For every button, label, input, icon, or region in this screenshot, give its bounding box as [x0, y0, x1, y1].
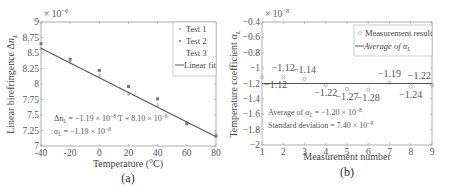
- x-tick-label: 2: [281, 147, 286, 157]
- y-tick-label: 9: [34, 17, 39, 27]
- data-label: −1.14: [293, 64, 316, 75]
- std-annotation: Standard deviation = 7.40 × 10−9: [268, 120, 373, 130]
- y-tick-label: −2: [250, 140, 260, 150]
- x-tick-label: 8: [408, 147, 413, 157]
- x-tick-label: 1: [260, 147, 265, 157]
- y-tick-label: 8.25: [22, 64, 39, 74]
- data-point: [127, 85, 130, 88]
- x-tick-label: 9: [430, 147, 435, 157]
- data-label: −1.22: [408, 70, 431, 81]
- x-tick-label: 80: [211, 148, 221, 158]
- y-tick-label: −1: [250, 63, 260, 73]
- marks-b: −1.12−1.12−1.14−1.22−1.27−1.28−1.19−1.24…: [260, 62, 433, 102]
- legend-label-linear-fit: Linear fit: [184, 60, 216, 70]
- data-point: [98, 69, 101, 72]
- data-label: −1.27: [335, 91, 358, 102]
- data-point: [40, 42, 43, 45]
- legend-label-measurement: Measurement result: [365, 28, 433, 38]
- data-point: [186, 124, 188, 126]
- y-tick-label: −0.6: [243, 32, 260, 42]
- legend-b: Measurement result Average of αL: [354, 25, 433, 56]
- y-tick-label: 8: [34, 79, 39, 89]
- data-label: −1.24: [399, 89, 422, 100]
- y-tick-label: 7: [34, 141, 39, 151]
- legend-a: Test 1 Test 2 Test 3 Linear fit: [173, 22, 216, 76]
- data-point: [215, 134, 217, 136]
- y-tick-label: −1.4: [243, 94, 260, 104]
- panel-b: 123456789−2−1.8−1.6−1.4−1.2−1−0.8−0.6−0.…: [228, 7, 435, 179]
- y-tick-label: −1.8: [243, 125, 260, 135]
- data-point: [156, 97, 159, 100]
- data-label: −1.22: [314, 87, 337, 98]
- y-multiplier-b: × 10−8: [265, 7, 289, 19]
- y-tick-label: 7.25: [22, 126, 39, 136]
- data-label: −1.12: [272, 62, 295, 73]
- x-axis-title-b: Measurement number: [303, 151, 391, 162]
- x-tick-label: -20: [64, 148, 77, 158]
- data-point: [98, 73, 100, 75]
- y-tick-label: 8.5: [27, 48, 39, 58]
- data-point: [303, 77, 306, 80]
- legend-label-test3: Test 3: [186, 48, 206, 58]
- legend-marker-test1: [179, 28, 181, 30]
- y-tick-label: −0.4: [243, 17, 260, 27]
- data-point: [157, 103, 159, 105]
- y-tick-label: 7.5: [27, 110, 39, 120]
- legend-label-test1: Test 1: [186, 24, 206, 34]
- y-axis-title-b: Temperature coefficient αL: [228, 30, 242, 137]
- y-multiplier-a: × 10−6: [44, 7, 69, 19]
- y-tick-label: 8.75: [22, 33, 39, 43]
- panel-caption-a: (a): [121, 171, 134, 185]
- data-point: [69, 59, 71, 61]
- legend-label-average: Average of αL: [363, 41, 411, 52]
- y-tick-label: 7.75: [22, 95, 39, 105]
- y-tick-label: −0.8: [243, 48, 260, 58]
- y-tick-label: −1.6: [243, 109, 260, 119]
- fit-equation-annotation: ΔnL = −1.19 × 10−8 T + 8.10 × 10−6: [54, 113, 168, 124]
- x-axis-title-a: Temperature (°C): [93, 158, 163, 170]
- y-tick-label: −1.2: [243, 79, 260, 89]
- data-label: −1.19: [378, 68, 401, 79]
- legend-marker-test2: [179, 40, 181, 42]
- data-label: −1.12: [264, 79, 287, 90]
- panel-caption-b: (b): [340, 165, 354, 179]
- x-tick-label: 60: [182, 148, 192, 158]
- panel-a: -40-2002040608077.257.57.7588.258.58.759…: [5, 7, 221, 185]
- alpha-annotation: αL = −1.19 × 10−8: [54, 126, 111, 137]
- x-tick-label: 20: [124, 148, 134, 158]
- x-tick-label: 40: [153, 148, 163, 158]
- y-axis-title-a: Linear birefringence ΔnL: [5, 34, 19, 134]
- legend-label-test2: Test 2: [186, 36, 206, 46]
- figure: -40-2002040608077.257.57.7588.258.58.759…: [0, 0, 450, 186]
- x-tick-label: 0: [97, 148, 102, 158]
- data-label: −1.28: [357, 92, 380, 103]
- average-annotation: Average of αL = −1.20 × 10−8: [268, 107, 362, 118]
